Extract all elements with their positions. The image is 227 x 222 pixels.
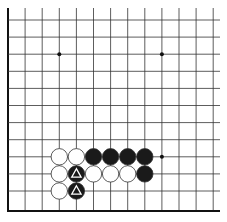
black-stone (120, 149, 136, 165)
white-stone (51, 149, 67, 165)
black-stone (137, 149, 153, 165)
white-stone (68, 149, 84, 165)
black-stone (137, 166, 153, 182)
white-stone (120, 166, 136, 182)
white-stone (51, 183, 67, 199)
star-point (160, 52, 164, 56)
go-board (0, 0, 227, 222)
stones (51, 149, 153, 200)
star-point (160, 155, 164, 159)
star-point (57, 52, 61, 56)
white-stone (85, 166, 101, 182)
white-stone (51, 166, 67, 182)
black-stone (85, 149, 101, 165)
white-stone (102, 166, 118, 182)
black-stone (102, 149, 118, 165)
